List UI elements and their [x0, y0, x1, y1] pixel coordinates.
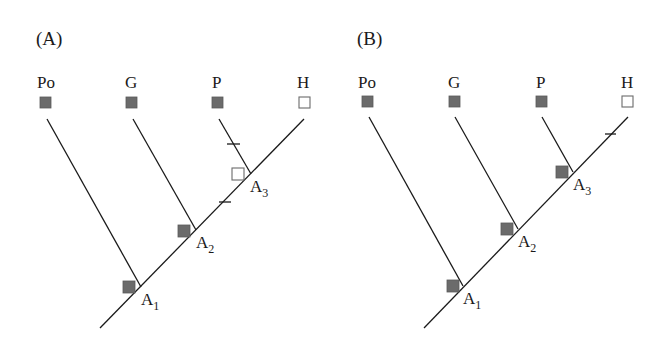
state-square-g: [449, 96, 460, 107]
state-square-p: [536, 96, 547, 107]
taxon-label-h: H: [297, 73, 309, 92]
branch-p: [542, 117, 573, 172]
taxon-label-g: G: [125, 73, 137, 92]
branch-po: [369, 117, 463, 286]
panel-a-label: (A): [36, 28, 62, 50]
node-label-a3: A3: [250, 177, 268, 200]
state-square-h: [299, 97, 310, 108]
panel-b-label: (B): [357, 28, 382, 50]
taxon-label-h: H: [621, 73, 633, 92]
node-square-a2: [178, 225, 190, 237]
node-square-a1: [123, 281, 135, 293]
node-square-a1: [447, 280, 459, 292]
panel-b: (B) Po G P H A1 A2 A3: [357, 28, 633, 328]
taxon-label-po: Po: [37, 73, 55, 92]
taxon-label-g: G: [448, 73, 460, 92]
taxon-label-p: P: [212, 73, 221, 92]
phylogeny-figure: (A) Po G P H A1 A2 A3 (B) Po G P H: [0, 0, 658, 357]
taxon-label-p: P: [536, 73, 545, 92]
node-label-a2: A2: [196, 233, 214, 256]
branch-g: [133, 119, 196, 230]
node-label-a3: A3: [573, 175, 591, 198]
branch-p: [219, 119, 251, 174]
node-label-a1: A1: [463, 289, 481, 312]
node-label-a1: A1: [141, 290, 159, 313]
state-square-po: [362, 96, 373, 107]
branch-g: [455, 117, 518, 229]
stem-branch-a: [100, 119, 304, 328]
state-square-po: [40, 97, 51, 108]
node-square-a2: [501, 223, 513, 235]
panel-a: (A) Po G P H A1 A2 A3: [36, 28, 310, 328]
stem-branch-b: [424, 117, 628, 328]
state-square-h: [622, 96, 633, 107]
state-square-p: [212, 97, 223, 108]
state-square-g: [126, 97, 137, 108]
node-square-a3: [232, 168, 244, 180]
node-label-a2: A2: [518, 232, 536, 255]
branch-po: [47, 119, 141, 287]
node-square-a3: [556, 166, 568, 178]
taxon-label-po: Po: [358, 73, 376, 92]
